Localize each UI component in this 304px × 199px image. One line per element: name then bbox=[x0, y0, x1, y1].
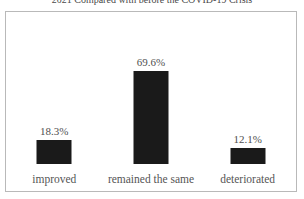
bar-column: 18.3% bbox=[6, 12, 103, 191]
bar-value-label: 18.3% bbox=[40, 125, 68, 137]
bar-column: 69.6% bbox=[103, 12, 200, 191]
bar-rect[interactable] bbox=[37, 140, 72, 164]
bar-value-label: 69.6% bbox=[137, 56, 165, 68]
bar-rect[interactable] bbox=[230, 148, 265, 164]
bar-rect[interactable] bbox=[133, 71, 168, 164]
category-label-improved: improved bbox=[32, 173, 76, 186]
chart-title: 2021 Compared with before the COVID-19 C… bbox=[0, 0, 304, 5]
bar-column: 12.1% bbox=[199, 12, 296, 191]
chart-figure: 2021 Compared with before the COVID-19 C… bbox=[0, 0, 304, 199]
bar-group-deteriorated: 12.1% deteriorated bbox=[199, 12, 296, 191]
bar-group-improved: 18.3% improved bbox=[6, 12, 103, 191]
bar-group-remained-the-same: 69.6% remained the same bbox=[103, 12, 200, 191]
category-label-deteriorated: deteriorated bbox=[220, 173, 275, 186]
category-label-remained-the-same: remained the same bbox=[108, 173, 194, 186]
plot-area: 18.3% improved 69.6% remained the same 1… bbox=[6, 12, 296, 191]
bar-value-label: 12.1% bbox=[233, 133, 261, 145]
